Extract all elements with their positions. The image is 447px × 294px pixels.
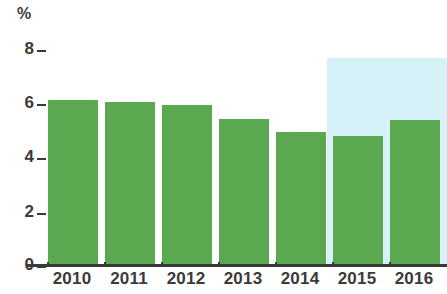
x-axis-tick-mark: [275, 262, 277, 267]
bar-2014: [276, 132, 326, 265]
bar-chart: % 8 6 4 2 0 2010 2011 2012 2013 2014 201…: [0, 0, 447, 294]
x-axis-label-2014: 2014: [269, 269, 331, 289]
x-axis-tick-mark: [218, 262, 220, 267]
x-axis-label-2016: 2016: [383, 269, 445, 289]
x-axis-tick-mark: [161, 262, 163, 267]
x-axis-tick-mark: [47, 262, 49, 267]
bar-2013: [219, 119, 269, 265]
bar-2015: [333, 136, 383, 265]
x-axis-line: [26, 264, 447, 267]
x-axis-tick-mark: [389, 262, 391, 267]
plot-area: [0, 0, 447, 265]
x-axis-tick-mark: [104, 262, 106, 267]
bar-2016: [390, 120, 440, 265]
x-axis-label-2013: 2013: [212, 269, 274, 289]
x-axis-label-2010: 2010: [41, 269, 103, 289]
x-axis-tick-mark: [332, 262, 334, 267]
x-axis-label-2015: 2015: [326, 269, 388, 289]
bar-2011: [105, 102, 155, 265]
bar-2012: [162, 105, 212, 265]
x-axis-label-2011: 2011: [98, 269, 160, 289]
bar-2010: [48, 100, 98, 265]
x-axis-label-2012: 2012: [155, 269, 217, 289]
